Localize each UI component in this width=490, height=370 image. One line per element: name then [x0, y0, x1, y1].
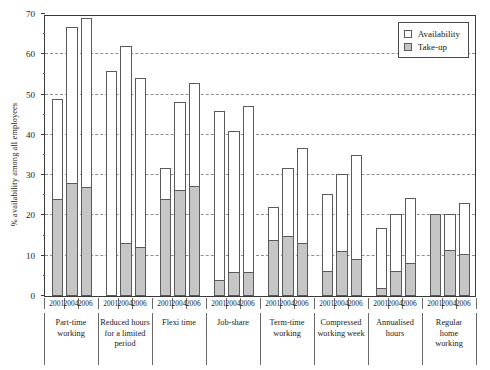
bar-takeup-segment — [120, 243, 132, 296]
x-axis-year-label: 2001 — [211, 299, 226, 308]
bar — [268, 207, 280, 296]
x-axis-year-label: 2001 — [103, 299, 118, 308]
x-axis-year-label: 2004 — [172, 299, 187, 308]
bar — [189, 83, 201, 297]
bar-takeup-segment — [214, 280, 226, 296]
plot-area: 010203040506070 Availability Take-up — [44, 15, 476, 297]
bar — [160, 168, 172, 296]
bar — [52, 99, 64, 296]
bar — [120, 46, 132, 296]
bar — [336, 174, 348, 296]
bar — [376, 228, 388, 296]
x-axis-year-label: 2006 — [132, 299, 147, 308]
y-tick-label: 10 — [26, 251, 35, 261]
bar-takeup-segment — [268, 240, 280, 296]
bar-takeup-segment — [376, 288, 388, 296]
y-tick-label: 0 — [31, 291, 36, 301]
group-separator — [44, 298, 45, 309]
bar-takeup-segment — [444, 250, 456, 296]
legend-item-takeup: Take-up — [404, 40, 460, 53]
bar — [297, 148, 309, 296]
x-axis-year-label: 2006 — [294, 299, 309, 308]
y-tick-minor — [43, 33, 46, 34]
bar — [135, 78, 147, 296]
x-axis-year-label: 2001 — [265, 299, 280, 308]
legend-label-takeup: Take-up — [418, 42, 447, 52]
x-axis-year-label: 2004 — [334, 299, 349, 308]
bar-takeup-segment — [189, 186, 201, 296]
x-axis-year-label: 2006 — [240, 299, 255, 308]
bar — [282, 168, 294, 296]
group-separator — [476, 298, 477, 309]
x-axis-year-label: 2004 — [118, 299, 133, 308]
x-axis-year-label: 2001 — [319, 299, 334, 308]
y-tick-minor — [43, 194, 46, 195]
availability-swatch-icon — [404, 30, 412, 38]
x-axis-year-label: 2004 — [64, 299, 79, 308]
bar-takeup-segment — [405, 263, 417, 296]
group-separator — [314, 298, 315, 309]
bar-takeup-segment — [297, 243, 309, 296]
y-tick-minor — [43, 235, 46, 236]
x-axis-year-label: 2006 — [186, 299, 201, 308]
x-axis-year-label: 2004 — [280, 299, 295, 308]
y-tick: 0 — [41, 295, 45, 296]
y-tick: 10 — [41, 255, 45, 256]
y-tick-label: 50 — [26, 90, 35, 100]
bar — [81, 18, 93, 296]
y-tick: 60 — [41, 53, 45, 54]
group-separator — [260, 298, 261, 309]
bar-takeup-segment — [282, 236, 294, 296]
bar — [459, 203, 471, 296]
x-axis-year-label: 2001 — [157, 299, 172, 308]
bar-takeup-segment — [390, 271, 402, 296]
group-separator — [152, 298, 153, 309]
bar — [430, 214, 442, 296]
x-axis-year-labels: 2001200420062001200420062001200420062001… — [44, 298, 476, 312]
bar — [444, 214, 456, 296]
x-axis-year-label: 2006 — [78, 299, 93, 308]
group-separator — [98, 298, 99, 309]
bar — [106, 71, 118, 296]
bar — [405, 198, 417, 296]
bar — [243, 106, 255, 296]
y-tick: 50 — [41, 94, 45, 95]
y-tick-label: 20 — [26, 210, 35, 220]
x-axis-year-label: 2004 — [226, 299, 241, 308]
y-tick-minor — [43, 154, 46, 155]
bar-takeup-segment — [430, 214, 442, 296]
group-separator — [476, 313, 477, 365]
bar-takeup-segment — [459, 254, 471, 296]
bar-takeup-segment — [351, 259, 363, 296]
bar-takeup-segment — [160, 199, 172, 296]
y-tick-label: 30 — [26, 170, 35, 180]
x-axis-year-label: 2001 — [373, 299, 388, 308]
group-separator — [206, 298, 207, 309]
bar-takeup-segment — [66, 183, 78, 296]
y-tick: 20 — [41, 214, 45, 215]
bar-takeup-segment — [322, 271, 334, 296]
legend: Availability Take-up — [398, 22, 469, 58]
y-tick-minor — [43, 73, 46, 74]
x-axis-year-label: 2006 — [456, 299, 471, 308]
bar-takeup-segment — [81, 187, 93, 296]
bar — [214, 111, 226, 296]
bar-takeup-segment — [228, 272, 240, 296]
y-tick-label: 70 — [26, 9, 35, 19]
y-tick-minor — [43, 114, 46, 115]
takeup-swatch-icon — [404, 43, 412, 51]
x-axis-year-label: 2001 — [427, 299, 442, 308]
y-tick: 40 — [41, 134, 45, 135]
bar-takeup-segment — [174, 190, 186, 296]
x-axis-year-label: 2004 — [388, 299, 403, 308]
x-axis-year-label: 2006 — [348, 299, 363, 308]
group-separator — [422, 298, 423, 309]
bar-takeup-segment — [52, 199, 64, 296]
y-axis-title: % availability among all employees — [10, 60, 19, 270]
y-tick-label: 40 — [26, 130, 35, 140]
y-tick: 30 — [41, 174, 45, 175]
bar — [66, 27, 78, 296]
bar — [174, 102, 186, 296]
bar — [390, 214, 402, 296]
y-tick-label: 60 — [26, 49, 35, 59]
